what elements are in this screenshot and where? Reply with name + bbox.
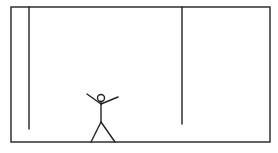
figure-head [98, 95, 105, 102]
stick-figure [87, 94, 118, 142]
diagram-canvas [0, 0, 278, 153]
figure-right-leg [101, 122, 115, 142]
figure-left-leg [91, 122, 101, 142]
diagram-svg [0, 0, 278, 153]
room-frame [11, 7, 270, 142]
